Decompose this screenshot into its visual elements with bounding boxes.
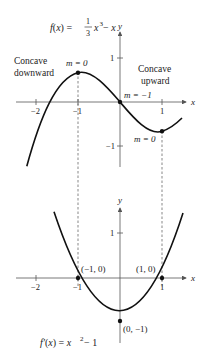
concave-up-label-2: upward <box>141 76 170 86</box>
top-x-tick: −1 <box>73 106 82 116</box>
top-graph: x y −2 −1 1 1 −1 f(x) = 1 3 x 3 − x Conc… <box>14 17 195 288</box>
svg-text:− 1: − 1 <box>84 337 97 348</box>
left-root-label: (−1, 0) <box>81 264 106 274</box>
svg-text:x: x <box>93 22 99 33</box>
svg-text:− x: − x <box>103 22 116 33</box>
f-prime-curve <box>54 212 183 311</box>
derivative-diagram: x y −2 −1 1 1 −1 f(x) = 1 3 x 3 − x Conc… <box>0 0 209 363</box>
top-x-tick: 1 <box>160 106 164 116</box>
f-curve <box>27 72 182 166</box>
bottom-y-label: y <box>117 195 122 205</box>
bottom-x-tick: 1 <box>160 282 164 292</box>
bottom-graph: x y −2 −1 1 1 (−1, 0) (1, 0) (0, −1) f′(… <box>16 195 195 349</box>
bottom-x-label: x <box>190 273 195 283</box>
concave-down-label-2: downward <box>14 68 54 78</box>
f-function-label: f(x) = 1 3 x 3 − x <box>50 17 116 38</box>
bottom-x-tick: −2 <box>31 282 40 292</box>
svg-text:3: 3 <box>86 29 90 38</box>
top-x-tick: −2 <box>31 106 40 116</box>
left-root-point <box>76 276 80 280</box>
vertex-point <box>118 319 122 323</box>
inflection-point <box>118 100 122 104</box>
top-y-tick: −1 <box>106 141 115 151</box>
top-x-label: x <box>190 97 195 107</box>
slope-min-label: m = 0 <box>134 134 156 144</box>
top-y-tick: 1 <box>110 53 114 63</box>
svg-text:f′(x) = x: f′(x) = x <box>40 337 72 349</box>
slope-max-label: m = 0 <box>66 58 88 68</box>
bottom-x-tick: −1 <box>73 282 82 292</box>
f-prime-function-label: f′(x) = x 2 − 1 <box>40 335 97 349</box>
bottom-y-tick: 1 <box>110 228 114 238</box>
top-y-label: y <box>117 21 122 31</box>
svg-text:1: 1 <box>86 17 90 26</box>
svg-text:f(x) =: f(x) = <box>50 22 72 34</box>
right-root-label: (1, 0) <box>136 264 156 274</box>
concave-up-label: Concave <box>138 64 171 74</box>
concave-down-label: Concave <box>14 56 47 66</box>
min-point <box>160 129 164 133</box>
vertex-label: (0, −1) <box>123 324 148 334</box>
right-root-point <box>160 276 164 280</box>
slope-inflection-label: m = −1 <box>124 90 152 100</box>
max-point <box>76 71 80 75</box>
